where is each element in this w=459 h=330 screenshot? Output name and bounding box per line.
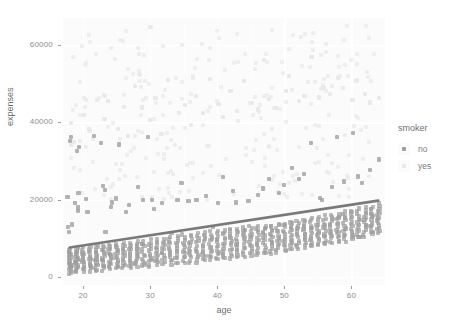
legend-swatch	[402, 164, 406, 168]
legend-entry[interactable]: yes	[398, 157, 459, 174]
legend-key-icon	[398, 143, 410, 155]
x-tick-mark	[284, 286, 285, 289]
chart-root: 0200004000060000 expenses 2030405060 age…	[0, 0, 459, 330]
legend-entries: noyes	[398, 140, 459, 174]
x-tick-mark	[351, 286, 352, 289]
y-tick-mark	[58, 122, 61, 123]
x-tick-label: 50	[264, 291, 304, 300]
y-tick-label: 20000	[5, 195, 53, 204]
x-tick-mark	[150, 286, 151, 289]
y-tick-label: 0	[5, 272, 53, 281]
legend: smoker noyes	[398, 123, 459, 174]
y-axis-title: expenses	[5, 87, 15, 126]
y-tick-mark	[58, 277, 61, 278]
x-tick-label: 40	[197, 291, 237, 300]
x-tick-label: 30	[130, 291, 170, 300]
legend-label: yes	[418, 161, 431, 171]
legend-swatch	[402, 147, 406, 151]
x-tick-mark	[217, 286, 218, 289]
x-tick-label: 20	[63, 291, 103, 300]
plot-panel	[63, 18, 385, 285]
x-axis-title: age	[0, 305, 448, 315]
y-tick-mark	[58, 45, 61, 46]
legend-entry[interactable]: no	[398, 140, 459, 157]
x-tick-label: 60	[331, 291, 371, 300]
legend-label: no	[418, 144, 427, 154]
legend-key-icon	[398, 160, 410, 172]
trendline	[63, 18, 385, 285]
legend-title: smoker	[398, 123, 459, 133]
y-tick-mark	[58, 200, 61, 201]
x-tick-mark	[83, 286, 84, 289]
y-tick-label: 60000	[5, 40, 53, 49]
